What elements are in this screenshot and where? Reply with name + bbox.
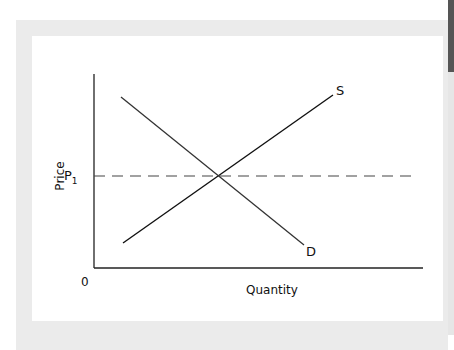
- x-axis-label: Quantity: [246, 283, 298, 297]
- supply-label: S: [336, 83, 344, 98]
- origin-label: 0: [81, 275, 89, 289]
- p1-label: P1: [64, 168, 78, 186]
- p1-subscript: 1: [72, 176, 78, 186]
- demand-label: D: [306, 244, 316, 259]
- demand-curve: [121, 97, 304, 245]
- supply-curve: [123, 95, 333, 243]
- p1-main: P: [64, 168, 72, 183]
